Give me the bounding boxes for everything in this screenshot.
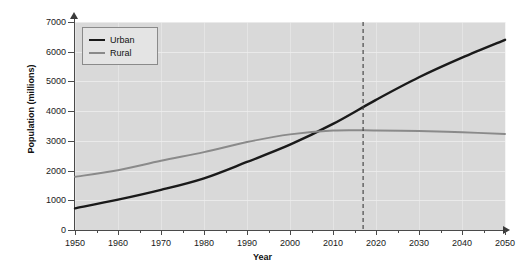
x-axis-tick: [204, 230, 205, 235]
x-axis-title: Year: [0, 252, 525, 262]
x-axis-tick: [247, 230, 248, 235]
series-line-rural: [75, 130, 505, 177]
y-axis-tick-label: 6000: [6, 47, 66, 57]
y-axis-tick: [68, 200, 74, 201]
series-canvas: [0, 0, 525, 275]
legend-item-rural[interactable]: Rural: [89, 46, 151, 59]
legend-label-urban: Urban: [110, 35, 135, 45]
x-axis-tick: [290, 230, 291, 235]
y-axis-tick: [68, 52, 74, 53]
x-axis-tick-label: 2050: [495, 238, 515, 248]
y-axis-tick-label: 1000: [6, 195, 66, 205]
x-axis-tick: [419, 230, 420, 235]
y-axis-tick-label: 0: [6, 225, 66, 235]
x-axis-tick-minor: [269, 230, 270, 233]
x-axis-tick-label: 2040: [452, 238, 472, 248]
legend-label-rural: Rural: [110, 48, 132, 58]
y-axis-tick-label: 5000: [6, 76, 66, 86]
x-axis-tick-label: 2020: [366, 238, 386, 248]
x-axis-tick-minor: [441, 230, 442, 233]
x-axis-tick: [161, 230, 162, 235]
x-axis-tick: [333, 230, 334, 235]
y-axis-tick-label: 4000: [6, 106, 66, 116]
y-axis-tick: [68, 171, 74, 172]
x-axis-tick-label: 1990: [237, 238, 257, 248]
x-axis-tick-minor: [183, 230, 184, 233]
y-axis-tick: [68, 230, 74, 231]
x-axis-tick-minor: [398, 230, 399, 233]
legend-swatch-urban: [89, 39, 105, 41]
chart-legend[interactable]: Urban Rural: [82, 27, 158, 65]
y-axis-tick: [68, 111, 74, 112]
y-axis-tick-label: 7000: [6, 17, 66, 27]
x-axis-tick-label: 1980: [194, 238, 214, 248]
legend-item-urban[interactable]: Urban: [89, 33, 151, 46]
x-axis-tick-label: 2000: [280, 238, 300, 248]
x-axis-tick-label: 1960: [108, 238, 128, 248]
y-axis-tick-label: 2000: [6, 166, 66, 176]
x-axis-tick-minor: [355, 230, 356, 233]
chart-figure: 01000200030004000500060007000 1950196019…: [0, 0, 525, 275]
x-axis-tick-label: 2010: [323, 238, 343, 248]
x-axis-tick: [462, 230, 463, 235]
series-line-urban: [75, 40, 505, 208]
x-axis-tick-minor: [140, 230, 141, 233]
y-axis-tick: [68, 141, 74, 142]
x-axis-tick-label: 1950: [65, 238, 85, 248]
y-axis-tick: [68, 81, 74, 82]
x-axis-tick-minor: [97, 230, 98, 233]
x-axis-tick-label: 1970: [151, 238, 171, 248]
x-axis-tick: [505, 230, 506, 235]
x-axis-tick-label: 2030: [409, 238, 429, 248]
x-axis-tick-minor: [312, 230, 313, 233]
legend-swatch-rural: [89, 52, 105, 54]
y-axis-title: Population (millions): [26, 29, 36, 189]
x-axis-tick: [118, 230, 119, 235]
x-axis-tick: [376, 230, 377, 235]
x-axis-tick-minor: [226, 230, 227, 233]
x-axis-tick: [75, 230, 76, 235]
x-axis-tick-minor: [484, 230, 485, 233]
y-axis-tick-label: 3000: [6, 136, 66, 146]
y-axis-tick: [68, 22, 74, 23]
